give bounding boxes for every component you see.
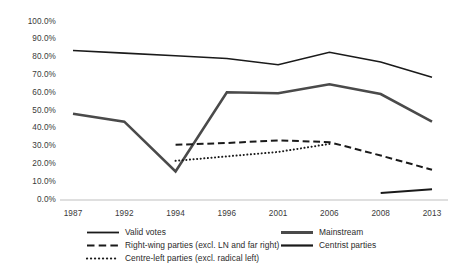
legend-item[interactable]: Right-wing parties (excl. LN and far rig… <box>86 241 279 250</box>
legend-item[interactable]: Centrist parties <box>280 241 376 250</box>
line-chart: 0.0%10.0%20.0%30.0%40.0%50.0%60.0%70.0%8… <box>0 0 461 272</box>
legend-label: Right-wing parties (excl. LN and far rig… <box>125 241 279 249</box>
legend-label: Valid votes <box>125 228 166 236</box>
legend-label: Centre-left parties (excl. radical left) <box>125 254 259 262</box>
series-line-2 <box>73 84 432 171</box>
legend-swatch-icon <box>86 228 120 237</box>
chart-legend: Valid votesMainstreamRight-wing parties … <box>0 228 461 272</box>
legend-swatch-icon <box>86 241 120 250</box>
legend-swatch-icon <box>280 228 314 237</box>
legend-label: Centrist parties <box>319 241 376 249</box>
legend-item[interactable]: Centre-left parties (excl. radical left) <box>86 254 259 263</box>
legend-label: Mainstream <box>319 228 363 236</box>
legend-item[interactable]: Mainstream <box>280 228 363 237</box>
series-line-1 <box>73 50 432 77</box>
legend-item[interactable]: Valid votes <box>86 228 166 237</box>
legend-swatch-icon <box>86 254 120 263</box>
series-line-3 <box>176 140 432 169</box>
series-line-4 <box>381 189 432 193</box>
series-line-5 <box>176 144 330 161</box>
legend-swatch-icon <box>280 241 314 250</box>
